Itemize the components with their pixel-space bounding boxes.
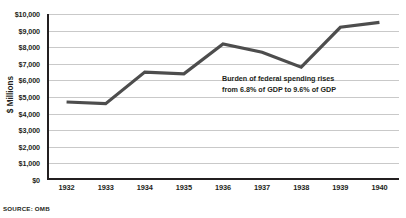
y-tick-label: $9,000 [19,26,40,35]
y-tick-label: $6,000 [19,76,40,85]
chart-page: $ Millions $10,000$9,000$8,000$7,000$6,0… [0,0,406,218]
y-tick-label: $0 [32,176,40,185]
y-tick-label: $1,000 [19,159,40,168]
y-tick-label: $10,000 [15,10,40,19]
x-tick-label: 1938 [293,183,309,192]
source-note: SOURCE: OMB [3,205,50,212]
x-tick-label: 1934 [137,183,153,192]
chart-annotation: Burden of federal spending rises from 6.… [222,73,390,95]
x-tick-label: 1935 [176,183,192,192]
y-tick-label: $7,000 [19,59,40,68]
x-tick-label: 1932 [59,183,75,192]
x-tick-label: 1936 [215,183,231,192]
y-tick-label: $3,000 [19,126,40,135]
x-tick-label: 1933 [98,183,114,192]
y-tick-label: $5,000 [19,93,40,102]
y-axis-line [47,14,49,180]
plot-area [47,14,399,180]
y-axis-tick-labels: $10,000$9,000$8,000$7,000$6,000$5,000$4,… [0,14,45,180]
series-line-federal-spending [47,14,399,180]
annotation-line-1: Burden of federal spending rises [222,73,390,84]
x-axis-line [47,178,399,180]
x-tick-label: 1937 [254,183,270,192]
annotation-line-2: from 6.8% of GDP to 9.6% of GDP [222,84,390,95]
x-tick-label: 1939 [332,183,348,192]
x-axis-tick-labels: 193219331934193519361937193819391940 [47,183,399,197]
y-tick-label: $4,000 [19,109,40,118]
y-tick-label: $2,000 [19,142,40,151]
x-tick-label: 1940 [371,183,387,192]
y-tick-label: $8,000 [19,43,40,52]
